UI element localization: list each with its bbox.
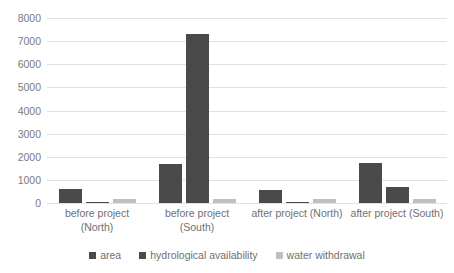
x-axis-label: after project (North) xyxy=(247,206,347,234)
bar-group xyxy=(147,18,247,203)
gridline xyxy=(47,203,447,204)
bar-group xyxy=(347,18,447,203)
bar xyxy=(186,34,209,204)
x-axis-label: before project (North) xyxy=(47,206,147,234)
legend-label: hydrological availability xyxy=(150,249,257,261)
bar xyxy=(413,199,436,203)
bar xyxy=(159,164,182,203)
bar xyxy=(59,189,82,203)
bar xyxy=(286,202,309,203)
legend-item[interactable]: area xyxy=(89,249,121,261)
bar-group xyxy=(247,18,347,203)
bar xyxy=(213,199,236,203)
legend-swatch-icon xyxy=(139,252,146,259)
bar-chart: 010002000300040005000600070008000 before… xyxy=(0,0,454,273)
y-axis-tick-label: 2000 xyxy=(0,151,41,163)
bar xyxy=(386,187,409,203)
y-axis-tick-label: 7000 xyxy=(0,35,41,47)
y-axis-tick-label: 8000 xyxy=(0,12,41,24)
bar-groups xyxy=(47,18,447,203)
legend-item[interactable]: hydrological availability xyxy=(139,249,257,261)
x-axis-labels: before project (North)before project (So… xyxy=(47,206,447,234)
y-axis-tick-label: 1000 xyxy=(0,174,41,186)
bar-group xyxy=(47,18,147,203)
chart-legend: areahydrological availabilitywater withd… xyxy=(0,249,454,261)
bar xyxy=(86,202,109,203)
legend-swatch-icon xyxy=(89,252,96,259)
legend-item[interactable]: water withdrawal xyxy=(276,249,365,261)
bar xyxy=(359,163,382,203)
bar xyxy=(313,199,336,203)
x-axis-label: before project (South) xyxy=(147,206,247,234)
bar xyxy=(113,199,136,203)
legend-label: area xyxy=(100,249,121,261)
y-axis-tick-label: 3000 xyxy=(0,128,41,140)
y-axis-tick-label: 6000 xyxy=(0,58,41,70)
y-axis-tick-label: 0 xyxy=(0,197,41,209)
y-axis-tick-label: 5000 xyxy=(0,81,41,93)
x-axis-label: after project (South) xyxy=(347,206,447,234)
y-axis-tick-label: 4000 xyxy=(0,105,41,117)
legend-label: water withdrawal xyxy=(287,249,365,261)
bar xyxy=(259,190,282,203)
legend-swatch-icon xyxy=(276,252,283,259)
